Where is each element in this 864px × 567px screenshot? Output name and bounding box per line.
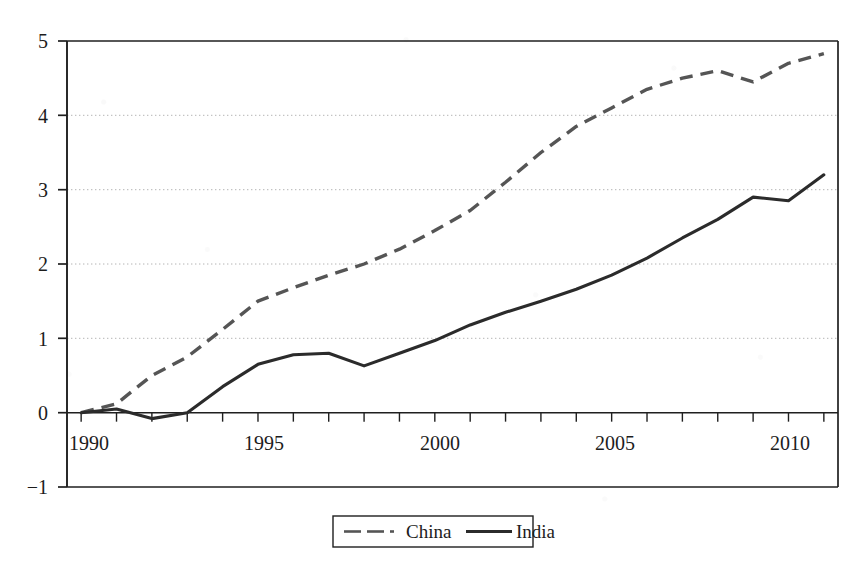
y-tick-label-2: 2 <box>38 253 48 275</box>
y-tick-label-1: 1 <box>38 328 48 350</box>
x-tick-label-1995: 1995 <box>244 432 284 454</box>
x-tick-label-2010: 2010 <box>770 432 810 454</box>
legend-label-china: China <box>406 521 452 542</box>
x-axis-tick-labels: 1990 1995 2000 2005 2010 <box>69 432 810 454</box>
plot-frame <box>67 41 838 487</box>
y-axis-tick-labels: 5 4 3 2 1 0 −1 <box>27 30 48 498</box>
y-axis-ticks <box>58 41 67 487</box>
legend-label-india: India <box>516 521 556 542</box>
y-tick-label-5: 5 <box>38 30 48 52</box>
x-tick-label-1990: 1990 <box>69 432 109 454</box>
y-tick-label-3: 3 <box>38 179 48 201</box>
legend: China India <box>333 516 556 547</box>
x-axis-minor-ticks <box>81 413 824 422</box>
series-line-china <box>81 54 824 413</box>
series-line-india <box>81 175 824 419</box>
gridlines <box>67 115 838 338</box>
y-tick-label-4: 4 <box>38 105 48 127</box>
x-tick-label-2005: 2005 <box>595 432 635 454</box>
x-tick-label-2000: 2000 <box>420 432 460 454</box>
y-tick-label-0: 0 <box>38 402 48 424</box>
line-chart: 5 4 3 2 1 0 −1 1990 1995 2000 2005 2010 <box>0 0 864 567</box>
y-tick-label-neg1: −1 <box>27 476 48 498</box>
figure-container: 5 4 3 2 1 0 −1 1990 1995 2000 2005 2010 <box>0 0 864 567</box>
